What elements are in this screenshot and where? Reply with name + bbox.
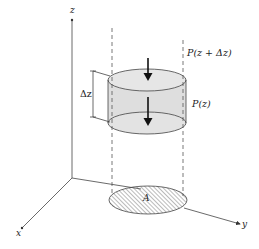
top-pressure-label: P(z + Δz) [187,48,232,58]
fluid-element-diagram [0,0,259,249]
delta-z-dimension [90,71,110,122]
diagram-canvas: z x y P(z + Δz) P(z) Δz A [0,0,259,249]
y-axis-label: y [242,220,247,229]
z-axis-label: z [70,6,75,15]
bottom-pressure-label: P(z) [192,99,211,109]
z-axis [71,19,73,178]
area-label: A [143,194,150,203]
x-axis-label: x [16,229,21,238]
delta-z-label: Δz [80,89,92,99]
x-axis [21,178,72,229]
